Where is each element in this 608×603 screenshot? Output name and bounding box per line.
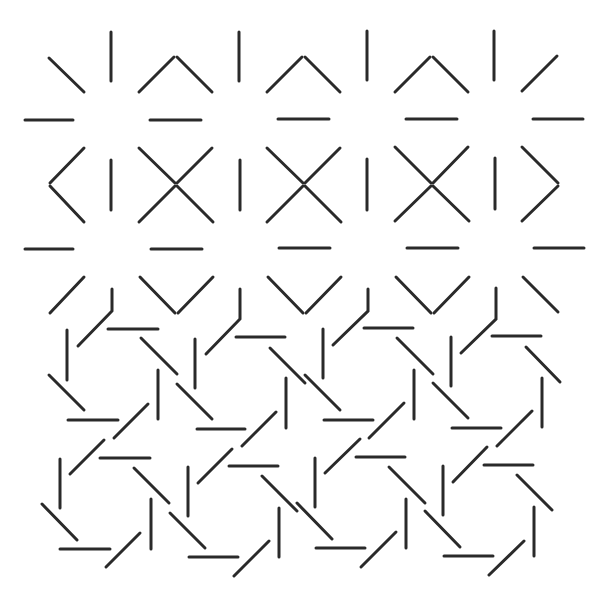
canvas-background <box>0 0 608 603</box>
line-pattern-artwork <box>0 0 608 603</box>
